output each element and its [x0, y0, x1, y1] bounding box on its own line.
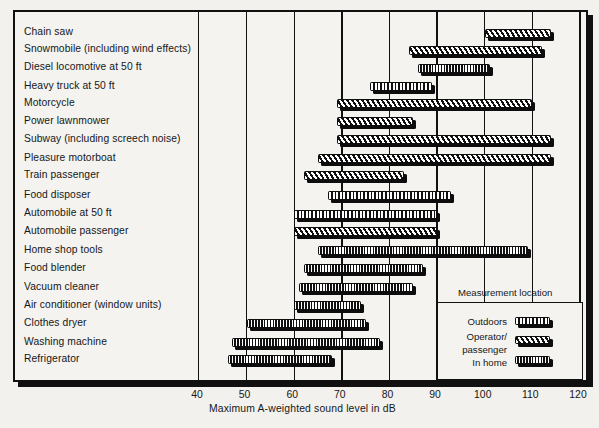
category-label: Subway (including screech noise): [24, 133, 181, 144]
tick-label-70: 70: [325, 389, 355, 400]
bar-inhome: [228, 355, 333, 364]
tick-label-120: 120: [563, 389, 593, 400]
category-label: Air conditioner (window units): [24, 299, 162, 310]
x-axis-title: Maximum A-weighted sound level in dB: [209, 403, 396, 414]
legend-swatch-operator: [515, 336, 550, 344]
category-label: Automobile passenger: [24, 225, 128, 236]
bar-body: [328, 191, 452, 200]
legend-label: passenger: [439, 344, 507, 355]
bar-operator: [318, 154, 551, 163]
category-label: Snowmobile (including wind effects): [24, 43, 191, 54]
bar-inhome: [247, 319, 366, 328]
category-label: Food disposer: [24, 189, 91, 200]
category-label: Vacuum cleaner: [24, 281, 99, 292]
bar-inhome: [299, 283, 413, 292]
bar-body: [304, 264, 423, 273]
tick-label-110: 110: [515, 389, 545, 400]
bar-operator: [304, 171, 404, 180]
bar-outdoors: [370, 82, 432, 91]
bar-operator: [409, 46, 542, 55]
category-label: Washing machine: [24, 336, 107, 347]
category-label: Heavy truck at 50 ft: [24, 80, 115, 91]
bar-operator: [294, 227, 437, 236]
bar-inhome: [418, 64, 489, 73]
category-label: Food blender: [24, 262, 86, 273]
bar-operator: [337, 99, 532, 108]
legend-label: In home: [439, 357, 507, 368]
bar-outdoors: [328, 191, 452, 200]
legend-swatch-outdoors: [515, 317, 550, 325]
bar-inhome: [232, 338, 380, 347]
bar-body: [294, 210, 437, 219]
legend-title: Measurement location: [458, 287, 552, 298]
legend-label: Outdoors: [439, 316, 507, 327]
category-label: Pleasure motorboat: [24, 152, 116, 163]
bar-body: [232, 338, 380, 347]
bar-inhome: [318, 246, 528, 255]
plot-frame: Chain sawSnowmobile (including wind effe…: [13, 10, 588, 382]
category-label: Chain saw: [24, 26, 73, 37]
tick-label-40: 40: [182, 389, 212, 400]
bar-body: [515, 336, 550, 344]
bar-body: [228, 355, 333, 364]
bar-operator: [485, 29, 552, 38]
bar-body: [337, 135, 551, 144]
bar-body: [318, 154, 551, 163]
bar-body: [299, 283, 413, 292]
category-label: Automobile at 50 ft: [24, 207, 112, 218]
bar-body: [318, 246, 528, 255]
legend-swatch-inhome: [515, 356, 550, 364]
bar-inhome: [294, 301, 361, 310]
category-label: Refrigerator: [24, 353, 80, 364]
legend-label: Operator/: [439, 331, 507, 342]
bar-body: [515, 317, 550, 325]
bar-body: [337, 99, 532, 108]
bar-body: [515, 356, 550, 364]
bar-body: [304, 171, 404, 180]
category-label: Home shop tools: [24, 244, 103, 255]
bar-body: [247, 319, 366, 328]
bar-body: [418, 64, 489, 73]
sound-level-chart: Chain sawSnowmobile (including wind effe…: [0, 0, 599, 428]
tick-label-100: 100: [468, 389, 498, 400]
category-label: Motorcycle: [24, 97, 75, 108]
tick-label-50: 50: [230, 389, 260, 400]
category-label: Train passenger: [24, 169, 100, 180]
category-label: Clothes dryer: [24, 317, 87, 328]
bar-inhome: [304, 264, 423, 273]
bar-operator: [337, 135, 551, 144]
bar-body: [370, 82, 432, 91]
bar-operator: [337, 117, 413, 126]
bar-outdoors: [294, 210, 437, 219]
tick-label-80: 80: [373, 389, 403, 400]
category-label: Diesel locomotive at 50 ft: [24, 61, 142, 72]
tick-label-60: 60: [277, 389, 307, 400]
bar-body: [337, 117, 413, 126]
category-label: Power lawnmower: [24, 115, 110, 126]
bar-body: [294, 301, 361, 310]
bar-body: [294, 227, 437, 236]
bar-body: [485, 29, 552, 38]
tick-label-90: 90: [420, 389, 450, 400]
bar-body: [409, 46, 542, 55]
